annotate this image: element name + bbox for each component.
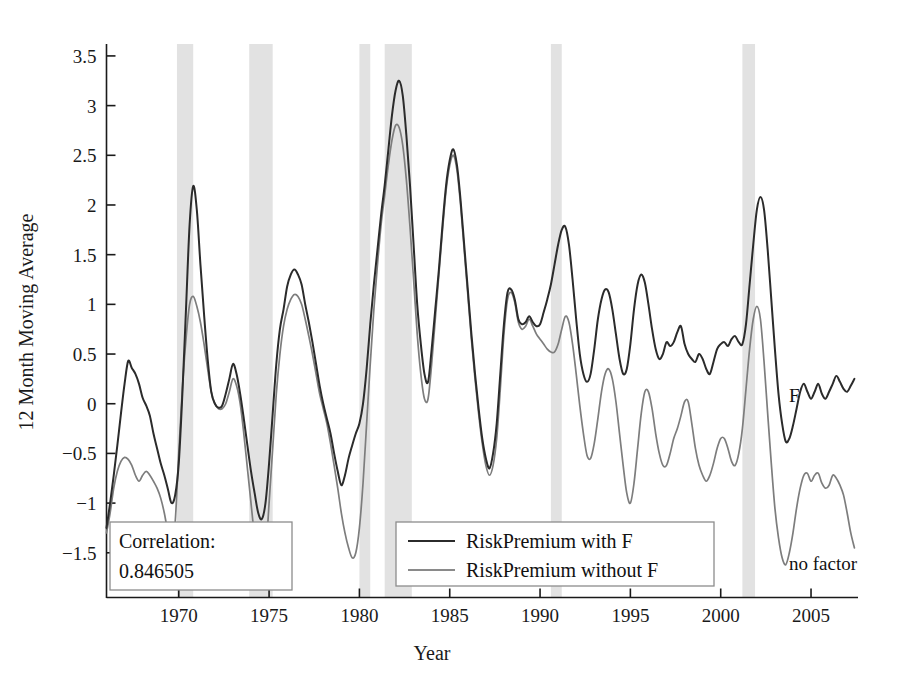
- chart-figure: −1.5−1−0.500.511.522.533.5 1970197519801…: [0, 0, 899, 687]
- y-tick-label: −0.5: [62, 443, 96, 464]
- x-tick-label: 1970: [160, 605, 198, 626]
- y-tick-label: 1: [87, 294, 97, 315]
- x-tick-label: 1990: [521, 605, 559, 626]
- legend: RiskPremium with F RiskPremium without F: [396, 522, 714, 586]
- y-tick-label: 0: [87, 394, 97, 415]
- chart-svg: −1.5−1−0.500.511.522.533.5 1970197519801…: [0, 0, 899, 687]
- correlation-box: Correlation: 0.846505: [110, 522, 292, 590]
- y-tick-label: 0.5: [73, 344, 97, 365]
- y-tick-label: 1.5: [73, 245, 97, 266]
- y-tick-label: 3.5: [73, 46, 97, 67]
- annotation-f: F: [789, 385, 800, 406]
- y-tick-label: −1.5: [62, 543, 96, 564]
- y-axis-title: 12 Month Moving Average: [15, 213, 38, 430]
- legend-label-with-f: RiskPremium with F: [466, 530, 633, 552]
- annotation-no-factor: no factor: [789, 553, 858, 574]
- x-tick-label: 2000: [702, 605, 740, 626]
- x-tick-label: 2005: [792, 605, 830, 626]
- x-tick-label: 1995: [611, 605, 649, 626]
- y-axis-title-group: 12 Month Moving Average: [15, 213, 38, 430]
- y-tick-label: 2.5: [73, 145, 97, 166]
- legend-label-without-f: RiskPremium without F: [466, 559, 658, 581]
- correlation-value: 0.846505: [119, 560, 194, 582]
- correlation-label: Correlation:: [119, 530, 216, 552]
- x-axis-title: Year: [414, 642, 451, 664]
- x-tick-label: 1975: [250, 605, 288, 626]
- y-tick-label: 3: [87, 96, 97, 117]
- y-tick-label: −1: [76, 493, 96, 514]
- x-tick-label: 1985: [431, 605, 469, 626]
- y-tick-label: 2: [87, 195, 97, 216]
- recession-band: [551, 44, 562, 598]
- x-tick-label: 1980: [340, 605, 378, 626]
